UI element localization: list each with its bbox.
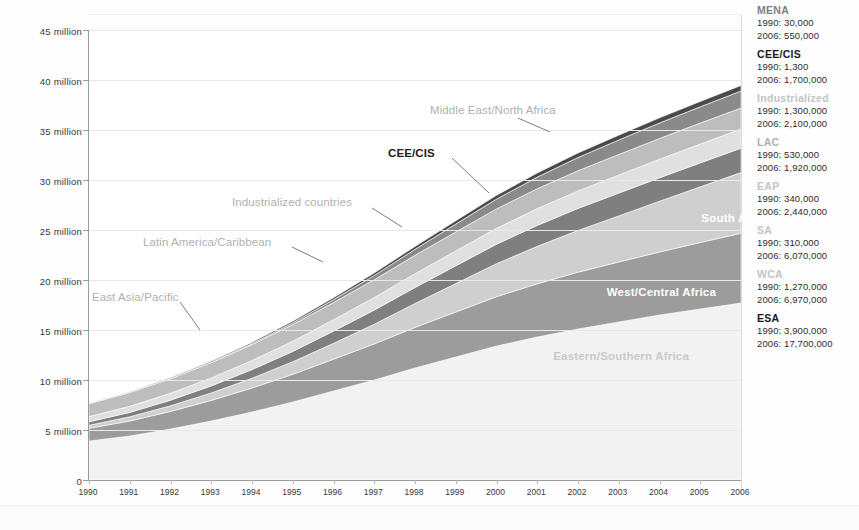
legend-item-value-2006: 2006: 550,000 (757, 30, 859, 43)
legend-item-value-1990: 1990: 530,000 (757, 149, 859, 162)
legend-item-value-1990: 1990: 340,000 (757, 193, 859, 206)
x-axis-tick-label: 2006 (731, 487, 750, 497)
legend-item-name: WCA (757, 268, 859, 281)
cropped-title-strip (0, 0, 859, 10)
legend-item-value-1990: 1990: 30,000 (757, 17, 859, 30)
x-axis-tick-mark (741, 480, 742, 484)
legend: MENA1990: 30,0002006: 550,000CEE/CIS1990… (757, 4, 859, 356)
gridline (89, 180, 741, 181)
annotation-middle-east-north-africa: Middle East/North Africa (430, 104, 556, 116)
x-axis-tick-mark (700, 480, 701, 484)
y-axis-tick-label: 40 million (40, 75, 82, 86)
x-axis-tick-mark (374, 480, 375, 484)
legend-item-name: ESA (757, 312, 859, 325)
legend-item-name: MENA (757, 4, 859, 17)
legend-item-cee-cis: CEE/CIS1990: 1,3002006: 1,700,000 (757, 48, 859, 86)
stacked-area-series (89, 30, 741, 480)
legend-item-value-2006: 2006: 6,070,000 (757, 250, 859, 263)
x-axis-tick-label: 1993 (201, 487, 220, 497)
legend-item-value-1990: 1990: 1,270,000 (757, 281, 859, 294)
legend-item-value-1990: 1990: 310,000 (757, 237, 859, 250)
x-axis-tick-mark (293, 480, 294, 484)
gridline (89, 80, 741, 81)
gridline (89, 30, 741, 31)
legend-item-name: EAP (757, 180, 859, 193)
x-axis-tick-label: 1997 (364, 487, 383, 497)
legend-item-industrialized: Industrialized1990: 1,300,0002006: 2,100… (757, 92, 859, 130)
x-axis-tick-mark (89, 480, 90, 484)
legend-item-esa: ESA1990: 3,900,0002006: 17,700,000 (757, 312, 859, 350)
legend-item-name: CEE/CIS (757, 48, 859, 61)
x-axis-tick-mark (578, 480, 579, 484)
annotation-east-asia-pacific: East Asia/Pacific (92, 291, 179, 303)
x-axis-tick-label: 2004 (649, 487, 668, 497)
x-axis-tick-mark (497, 480, 498, 484)
y-axis-tick-label: 20 million (40, 275, 82, 286)
y-axis-tick-label: 35 million (40, 125, 82, 136)
legend-item-name: SA (757, 224, 859, 237)
y-axis-tick-label: 45 million (40, 25, 82, 36)
gridline (89, 230, 741, 231)
annotation-south-asia: South Asia (701, 212, 763, 224)
legend-item-value-1990: 1990: 1,300,000 (757, 105, 859, 118)
x-axis-tick-label: 1990 (79, 487, 98, 497)
legend-item-value-1990: 1990: 3,900,000 (757, 325, 859, 338)
annotation-cee-cis: CEE/CIS (388, 147, 435, 159)
x-axis-tick-mark (415, 480, 416, 484)
x-axis-tick-label: 2000 (486, 487, 505, 497)
x-axis-tick-label: 1996 (323, 487, 342, 497)
x-axis: 1990199119921993199419951996199719981999… (88, 487, 740, 505)
legend-item-sa: SA1990: 310,0002006: 6,070,000 (757, 224, 859, 262)
x-axis-tick-mark (211, 480, 212, 484)
legend-item-value-2006: 2006: 17,700,000 (757, 338, 859, 351)
x-axis-tick-mark (537, 480, 538, 484)
legend-item-eap: EAP1990: 340,0002006: 2,440,000 (757, 180, 859, 218)
annotation-eastern-southern-africa: Eastern/Southern Africa (553, 350, 689, 362)
x-axis-tick-label: 1992 (160, 487, 179, 497)
x-axis-tick-label: 1991 (119, 487, 138, 497)
x-axis-tick-mark (130, 480, 131, 484)
legend-item-value-2006: 2006: 2,440,000 (757, 206, 859, 219)
legend-item-name: LAC (757, 136, 859, 149)
x-axis-tick-label: 2003 (608, 487, 627, 497)
x-axis-tick-label: 1995 (282, 487, 301, 497)
annotation-latin-america-caribbean: Latin America/Caribbean (143, 236, 271, 248)
x-axis-tick-mark (456, 480, 457, 484)
y-axis-tick-label: 15 million (40, 325, 82, 336)
x-axis-tick-label: 1994 (242, 487, 261, 497)
gridline (89, 380, 741, 381)
gridline (89, 130, 741, 131)
y-axis: 05 million10 million15 million20 million… (0, 30, 82, 481)
x-axis-tick-mark (334, 480, 335, 484)
legend-item-value-2006: 2006: 1,920,000 (757, 162, 859, 175)
annotation-industrialized-countries: Industrialized countries (232, 196, 352, 208)
legend-item-value-2006: 2006: 2,100,000 (757, 118, 859, 131)
footer-strip (0, 505, 859, 530)
legend-item-lac: LAC1990: 530,0002006: 1,920,000 (757, 136, 859, 174)
legend-item-value-2006: 2006: 1,700,000 (757, 74, 859, 87)
legend-item-wca: WCA1990: 1,270,0002006: 6,970,000 (757, 268, 859, 306)
plot-area (88, 30, 741, 481)
y-axis-tick-label: 30 million (40, 175, 82, 186)
gridline (89, 330, 741, 331)
x-axis-tick-mark (252, 480, 253, 484)
x-axis-tick-mark (660, 480, 661, 484)
gridline (89, 430, 741, 431)
x-axis-tick-label: 2001 (527, 487, 546, 497)
legend-item-value-1990: 1990: 1,300 (757, 61, 859, 74)
legend-item-mena: MENA1990: 30,0002006: 550,000 (757, 4, 859, 42)
gridline (89, 280, 741, 281)
y-axis-tick-label: 5 million (45, 425, 82, 436)
y-axis-tick-label: 10 million (40, 375, 82, 386)
x-axis-tick-mark (171, 480, 172, 484)
y-axis-tick-label: 0 (77, 475, 82, 486)
x-axis-tick-label: 1999 (445, 487, 464, 497)
x-axis-tick-label: 1998 (405, 487, 424, 497)
x-axis-tick-label: 2005 (690, 487, 709, 497)
legend-item-value-2006: 2006: 6,970,000 (757, 294, 859, 307)
legend-item-name: Industrialized (757, 92, 859, 105)
y-axis-tick-label: 25 million (40, 225, 82, 236)
x-axis-tick-label: 2002 (568, 487, 587, 497)
annotation-west-central-africa: West/Central Africa (607, 286, 716, 298)
